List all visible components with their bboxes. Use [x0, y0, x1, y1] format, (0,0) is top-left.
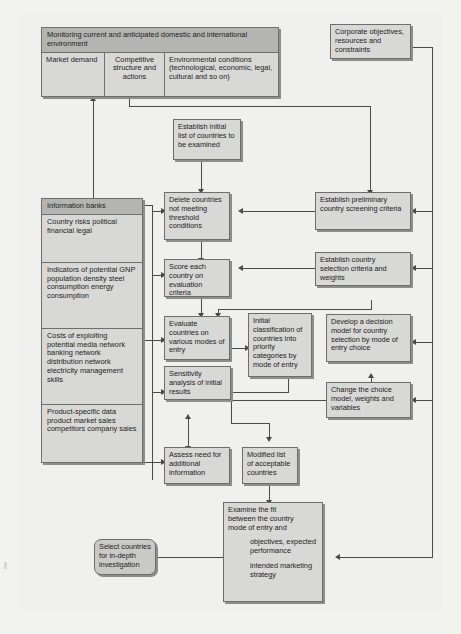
connector-infobanks-rail-top: [143, 205, 153, 206]
info-item: product market sales: [47, 416, 116, 425]
connector-corporate-out-h: [411, 47, 433, 48]
connector-monitoring-to-prelim-v: [370, 106, 371, 192]
monitoring-col-market-demand: Market demand: [42, 53, 104, 96]
info-item: company sales: [87, 424, 136, 433]
connector-sensitivity-to-modified-h: [231, 423, 270, 424]
monitoring-columns: Market demand Competitive structure and …: [42, 53, 278, 96]
evaluate-countries-box: Evaluate countries on various modes of e…: [164, 316, 230, 360]
arrow-spine-model: [411, 339, 416, 345]
decision-model-box: Develop a decision model for country sel…: [326, 314, 411, 362]
info-item: distribution network: [47, 357, 111, 366]
connector-spine-to-change: [416, 400, 433, 401]
info-item: competitors: [47, 424, 85, 433]
arrow-spine-selection: [411, 265, 416, 271]
monitoring-col-competitive: Competitive structure and actions: [104, 53, 164, 96]
arrow-to-modified-list: [266, 437, 272, 442]
info-item: political: [92, 217, 117, 226]
arrow-assess-to-sensitivity: [185, 414, 191, 419]
arrow-spine-prelim: [411, 208, 416, 214]
connector-infobanks-rail: [152, 205, 153, 480]
info-section-title: Product-specific data: [47, 407, 116, 416]
arrow-selection-to-score: [238, 265, 243, 271]
information-banks-header: Information banks: [42, 199, 142, 215]
initial-classification-box: Initial classification of countries into…: [248, 313, 312, 377]
examine-fit-line1: Examine the fit: [228, 505, 276, 514]
delete-countries-box: Delete countries not meeting threshold c…: [164, 192, 230, 240]
arrow-spine-change: [411, 397, 416, 403]
connector-spine-to-selection: [416, 268, 433, 269]
info-item: population: [47, 274, 81, 283]
connector-change-to-sensitivity-h: [232, 400, 327, 401]
connector-delete-to-score: [201, 240, 202, 260]
connector-sensitivity-assess: [188, 418, 189, 448]
monitoring-col-environmental: Environmental conditions (technological,…: [164, 53, 278, 96]
connector-sensitivity-loop-v: [288, 377, 289, 393]
sensitivity-analysis-box: Sensitivity analysis of initial results: [164, 366, 231, 400]
info-item: density: [83, 274, 106, 283]
scan-artifact: [4, 562, 7, 569]
arrow-prelim-to-delete: [238, 208, 243, 214]
monitoring-header: Monitoring current and anticipated domes…: [42, 28, 278, 53]
connector-selection-to-score: [243, 268, 315, 269]
connector-prelim-to-delete: [243, 211, 315, 212]
modified-list-box: Modified list of acceptable countries: [242, 447, 298, 484]
info-item: banking network: [47, 348, 101, 357]
info-item: GNP: [119, 265, 135, 274]
info-section-indicators: Indicators of potential GNP population d…: [42, 263, 142, 329]
connector-sensitivity-loop-h: [232, 392, 289, 393]
info-item: media network: [77, 340, 125, 349]
info-section-title: Indicators of potential: [47, 265, 117, 274]
select-countries-terminal: Select countries for in-depth investigat…: [94, 539, 156, 575]
examine-fit-box: Examine the fit between the country mode…: [223, 502, 323, 602]
info-section-title: Country risks: [47, 217, 90, 226]
preliminary-criteria-box: Establish preliminary country screening …: [315, 192, 411, 230]
connector-right-spine: [432, 47, 433, 557]
examine-fit-line3: mode of entry and: [228, 523, 287, 532]
change-choice-model-box: Change the choice model, weights and var…: [326, 382, 411, 418]
diagram-canvas: Monitoring current and anticipated domes…: [0, 0, 461, 634]
connector-sensitivity-to-modified-v: [231, 400, 232, 424]
connector-bank-stub-low: [143, 462, 153, 463]
info-item: legal: [76, 226, 92, 235]
arrow-change-to-model: [368, 373, 374, 378]
connector-bank-stub-mid: [143, 340, 153, 341]
examine-fit-item1-line2: performance: [228, 547, 318, 556]
connector-right-spine-to-examine-h: [340, 557, 433, 558]
examine-fit-line2: between the country: [228, 514, 294, 523]
info-item: electricity: [47, 366, 78, 375]
connector-monitoring-out-h: [129, 106, 371, 107]
connector-initial-to-delete: [201, 160, 202, 191]
connector-bank-stub-spacer: [143, 205, 144, 206]
connector-infobanks-to-monitoring-v: [93, 100, 94, 198]
monitoring-environment-box: Monitoring current and anticipated domes…: [41, 27, 279, 97]
assess-need-box: Assess need for additional information: [164, 447, 230, 484]
corporate-objectives-box: Corporate objectives, resources and cons…: [330, 24, 411, 59]
establish-initial-list-box: Establish initial list of countries to b…: [173, 119, 241, 160]
info-section-costs: Costs of exploiting potential media netw…: [42, 329, 142, 405]
connector-spine-to-model: [416, 342, 433, 343]
score-each-country-box: Score each country on evaluation criteri…: [164, 259, 230, 297]
connector-examine-to-select: [155, 557, 223, 558]
examine-fit-item2-line2: strategy: [228, 571, 318, 580]
information-banks-box: Information banks Country risks politica…: [41, 198, 143, 463]
info-section-country-risks: Country risks political financial legal: [42, 215, 142, 263]
info-item: financial: [47, 226, 74, 235]
selection-criteria-box: Establish country selection criteria and…: [315, 252, 411, 286]
info-section-product-data: Product-specific data product market sal…: [42, 405, 142, 437]
connector-spine-to-prelim: [416, 211, 433, 212]
connector-model-to-evaluate-h: [218, 309, 372, 310]
arrow-spine-to-examine: [335, 554, 340, 560]
